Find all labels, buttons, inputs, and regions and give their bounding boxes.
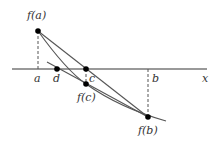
label-b: b xyxy=(152,72,159,85)
label-c: c xyxy=(89,72,95,85)
label-fb: f(b) xyxy=(137,124,158,137)
label-fa: f(a) xyxy=(26,9,46,22)
point-fb xyxy=(145,114,151,120)
point-d xyxy=(54,66,60,72)
secant-fc-fb xyxy=(47,62,148,117)
label-a: a xyxy=(34,72,41,85)
point-fa xyxy=(35,28,41,34)
diagram-canvas: f(a) a d c f(c) b x f(b) xyxy=(0,0,216,142)
label-d: d xyxy=(53,72,60,85)
label-fc: f(c) xyxy=(76,91,96,104)
point-c xyxy=(83,66,89,72)
label-x-axis: x xyxy=(202,72,209,85)
point-fc xyxy=(83,81,89,87)
